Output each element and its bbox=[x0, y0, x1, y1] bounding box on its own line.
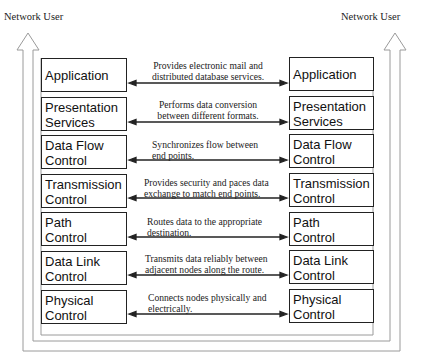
description-line: electrically. bbox=[148, 304, 298, 315]
right-layer-application: Application bbox=[289, 57, 374, 91]
layer-description-physical-control: Connects nodes physically and electrical… bbox=[148, 293, 298, 314]
right-layer-path-control: Path Control bbox=[289, 212, 374, 246]
description-line: Routes data to the appropriate bbox=[147, 217, 297, 228]
layer-description-data-link-control: Transmits data reliably between adjacent… bbox=[145, 254, 295, 275]
right-layer-transmission-control: Transmission Control bbox=[289, 173, 374, 207]
layer-label: Transmission bbox=[45, 177, 126, 192]
layer-label: Data Link bbox=[293, 253, 373, 268]
layer-description-transmission-control: Provides security and paces data exchang… bbox=[144, 178, 294, 199]
left-layer-application: Application bbox=[41, 58, 127, 92]
right-network-user-label: Network User bbox=[341, 11, 400, 22]
layer-label: Control bbox=[45, 153, 126, 168]
layer-description-presentation-services: Performs data conversion between differe… bbox=[137, 100, 279, 121]
description-line: adjacent nodes along the route. bbox=[145, 265, 295, 276]
layer-label: Control bbox=[293, 230, 373, 245]
layer-label: Control bbox=[45, 192, 126, 207]
layer-label: Data Link bbox=[45, 254, 126, 269]
layer-label: Services bbox=[293, 114, 373, 129]
description-line: Synchronizes flow between bbox=[152, 140, 294, 151]
layer-label: Control bbox=[293, 152, 373, 167]
layer-label: Control bbox=[45, 308, 126, 323]
layer-description-application: Provides electronic mail and distributed… bbox=[137, 61, 279, 82]
layer-label: Path bbox=[45, 215, 126, 230]
right-layer-data-flow-control: Data Flow Control bbox=[289, 134, 374, 168]
description-line: Provides security and paces data bbox=[144, 178, 294, 189]
description-line: exchange to match end points. bbox=[144, 189, 294, 200]
description-line: Transmits data reliably between bbox=[145, 254, 295, 265]
left-layer-transmission-control: Transmission Control bbox=[41, 174, 127, 208]
left-layer-data-flow-control: Data Flow Control bbox=[41, 135, 127, 169]
description-line: destination. bbox=[147, 228, 297, 239]
layer-label: Control bbox=[293, 307, 373, 322]
layer-label: Application bbox=[293, 67, 357, 82]
layer-label: Control bbox=[293, 268, 373, 283]
layer-label: Application bbox=[45, 68, 109, 83]
left-layer-data-link-control: Data Link Control bbox=[41, 251, 127, 285]
layer-description-path-control: Routes data to the appropriate destinati… bbox=[147, 217, 297, 238]
layer-label: Presentation bbox=[293, 99, 373, 114]
description-line: end points. bbox=[152, 151, 294, 162]
left-network-user-label: Network User bbox=[4, 11, 63, 22]
layer-label: Control bbox=[293, 191, 373, 206]
left-layer-physical-control: Physical Control bbox=[41, 290, 127, 324]
layer-label: Transmission bbox=[293, 176, 373, 191]
right-layer-presentation-services: Presentation Services bbox=[289, 96, 374, 130]
layer-label: Path bbox=[293, 215, 373, 230]
layer-label: Data Flow bbox=[293, 137, 373, 152]
layer-label: Services bbox=[45, 115, 126, 130]
description-line: Performs data conversion bbox=[137, 100, 279, 111]
layer-label: Control bbox=[45, 269, 126, 284]
layer-label: Data Flow bbox=[45, 138, 126, 153]
layer-label: Control bbox=[45, 230, 126, 245]
right-layer-physical-control: Physical Control bbox=[289, 289, 374, 323]
right-layer-data-link-control: Data Link Control bbox=[289, 250, 374, 284]
description-line: between different formats. bbox=[137, 111, 279, 122]
layer-label: Physical bbox=[45, 293, 126, 308]
left-layer-presentation-services: Presentation Services bbox=[41, 97, 127, 131]
left-layer-path-control: Path Control bbox=[41, 212, 127, 246]
description-line: distributed database services. bbox=[137, 72, 279, 83]
description-line: Provides electronic mail and bbox=[137, 61, 279, 72]
layer-label: Physical bbox=[293, 292, 373, 307]
layer-description-data-flow-control: Synchronizes flow between end points. bbox=[152, 140, 294, 161]
description-line: Connects nodes physically and bbox=[148, 293, 298, 304]
layer-label: Presentation bbox=[45, 100, 126, 115]
